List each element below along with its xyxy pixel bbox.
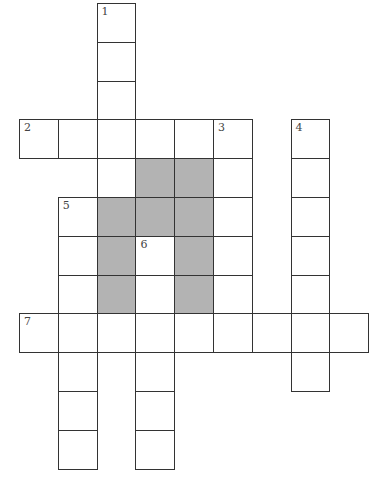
grid-cell[interactable] (291, 352, 331, 392)
grid-cell[interactable] (135, 119, 175, 159)
grid-cell[interactable] (97, 313, 137, 353)
grid-cell[interactable] (174, 313, 214, 353)
shaded-cell (174, 158, 214, 198)
clue-number: 2 (24, 122, 31, 133)
clue-number: 3 (218, 122, 225, 133)
grid-cell[interactable] (291, 236, 331, 276)
grid-cell[interactable] (135, 391, 175, 431)
grid-cell[interactable] (329, 313, 369, 353)
shaded-cell (97, 275, 137, 315)
shaded-cell (174, 197, 214, 237)
grid-cell[interactable] (58, 119, 98, 159)
grid-cell[interactable] (213, 275, 253, 315)
clue-number: 6 (140, 239, 147, 250)
clue-number: 1 (102, 6, 109, 17)
grid-cell[interactable] (135, 275, 175, 315)
grid-cell[interactable] (213, 236, 253, 276)
grid-cell[interactable] (58, 275, 98, 315)
shaded-cell (97, 236, 137, 276)
grid-cell[interactable] (97, 81, 137, 121)
clue-number: 4 (296, 122, 303, 133)
grid-cell[interactable] (213, 197, 253, 237)
shaded-cell (174, 275, 214, 315)
grid-cell[interactable] (135, 430, 175, 470)
clue-number: 7 (24, 316, 31, 327)
grid-cell[interactable] (97, 158, 137, 198)
grid-cell[interactable]: 3 (213, 119, 253, 159)
shaded-cell (135, 197, 175, 237)
shaded-cell (174, 236, 214, 276)
grid-cell[interactable] (58, 430, 98, 470)
grid-cell[interactable]: 5 (58, 197, 98, 237)
grid-cell[interactable]: 6 (135, 236, 175, 276)
grid-cell[interactable] (58, 313, 98, 353)
grid-cell[interactable] (291, 158, 331, 198)
grid-cell[interactable] (58, 391, 98, 431)
grid-cell[interactable] (58, 236, 98, 276)
grid-cell[interactable]: 7 (19, 313, 59, 353)
clue-number: 5 (63, 200, 70, 211)
grid-cell[interactable] (97, 42, 137, 82)
grid-cell[interactable] (135, 352, 175, 392)
grid-cell[interactable] (291, 275, 331, 315)
crossword-grid: 1234567 (0, 0, 388, 490)
grid-cell[interactable] (213, 158, 253, 198)
grid-cell[interactable]: 4 (291, 119, 331, 159)
grid-cell[interactable] (291, 197, 331, 237)
shaded-cell (97, 197, 137, 237)
grid-cell[interactable] (58, 352, 98, 392)
grid-cell[interactable] (213, 313, 253, 353)
grid-cell[interactable] (291, 313, 331, 353)
grid-cell[interactable] (174, 119, 214, 159)
grid-cell[interactable] (97, 119, 137, 159)
grid-cell[interactable] (135, 313, 175, 353)
grid-cell[interactable]: 1 (97, 3, 137, 43)
shaded-cell (135, 158, 175, 198)
grid-cell[interactable] (252, 313, 292, 353)
grid-cell[interactable]: 2 (19, 119, 59, 159)
